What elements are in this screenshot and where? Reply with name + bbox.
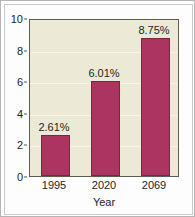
bar-value-label: 8.75% [138, 25, 169, 36]
y-axis-tick-mark [24, 82, 27, 83]
x-axis-title: Year [29, 197, 179, 208]
bar [141, 38, 170, 176]
x-axis-tick-label: 1995 [42, 180, 66, 191]
bar [41, 135, 70, 176]
y-axis-tick-mark [24, 50, 27, 51]
y-axis-tick-label: 0 [17, 172, 23, 183]
x-axis-tick-label: 2020 [92, 180, 116, 191]
y-axis-tick-label: 8 [17, 45, 23, 56]
y-axis: 0246810 [1, 19, 27, 177]
y-axis-tick-mark [24, 177, 27, 178]
y-axis-tick-label: 2 [17, 140, 23, 151]
figure-frame: 0246810 2.61%6.01%8.75% 199520202069 Yea… [0, 0, 195, 217]
plot-area [29, 19, 179, 177]
bar-value-label: 6.01% [88, 68, 119, 79]
y-axis-tick-mark [24, 145, 27, 146]
y-axis-tick-mark [24, 19, 27, 20]
y-axis-tick-mark [24, 113, 27, 114]
bar-value-label: 2.61% [38, 122, 69, 133]
y-axis-tick-label: 4 [17, 108, 23, 119]
y-axis-tick-label: 10 [11, 14, 23, 25]
x-axis-tick-label: 2069 [142, 180, 166, 191]
x-axis: 199520202069 [29, 180, 179, 196]
y-axis-tick-label: 6 [17, 77, 23, 88]
bar [91, 81, 120, 176]
